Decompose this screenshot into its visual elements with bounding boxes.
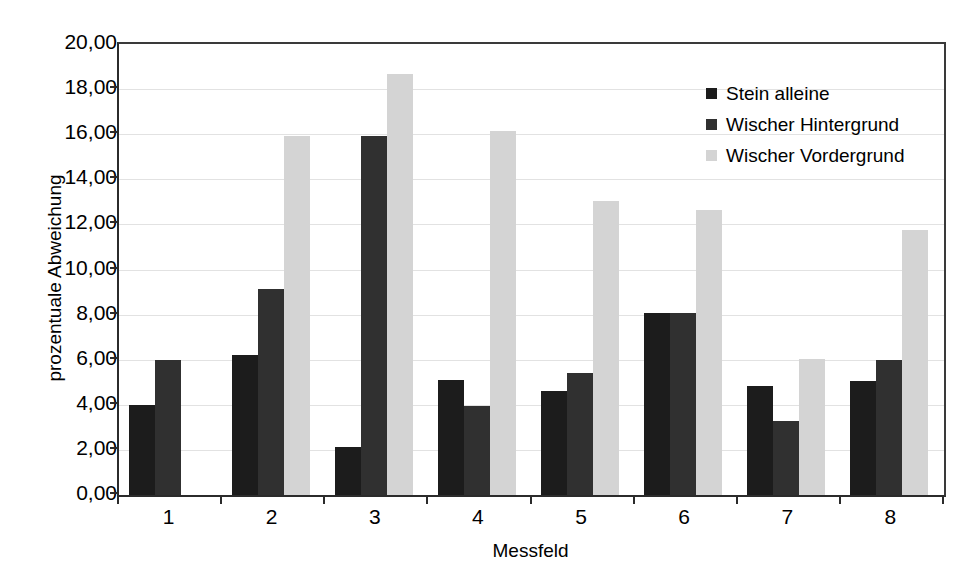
y-tick-label: 14,00 bbox=[33, 166, 117, 187]
bar bbox=[335, 447, 361, 495]
x-tick-mark bbox=[426, 495, 428, 504]
x-tick-mark bbox=[736, 495, 738, 504]
bar bbox=[438, 380, 464, 495]
bar bbox=[258, 289, 284, 495]
x-axis-title: Messfeld bbox=[117, 540, 944, 562]
x-tick-label: 5 bbox=[551, 505, 611, 529]
y-tick-label: 8,00 bbox=[33, 302, 117, 323]
x-tick-label: 3 bbox=[345, 505, 405, 529]
y-tick-label: 20,00 bbox=[33, 31, 117, 52]
gridline bbox=[119, 179, 944, 180]
x-tick-mark bbox=[117, 495, 119, 504]
x-tick-mark bbox=[633, 495, 635, 504]
y-axis-ticks: 0,002,004,006,008,0010,0012,0014,0016,00… bbox=[0, 0, 117, 576]
bar bbox=[670, 313, 696, 495]
bar bbox=[155, 360, 181, 495]
bar bbox=[387, 74, 413, 495]
legend-swatch-icon bbox=[706, 119, 717, 130]
x-tick-label: 1 bbox=[139, 505, 199, 529]
bar bbox=[232, 355, 258, 495]
legend-label: Wischer Hintergrund bbox=[726, 115, 899, 134]
y-tick-label: 4,00 bbox=[33, 392, 117, 413]
y-tick-label: 2,00 bbox=[33, 437, 117, 458]
legend-label: Wischer Vordergrund bbox=[726, 146, 904, 165]
bar bbox=[876, 360, 902, 495]
x-tick-label: 8 bbox=[860, 505, 920, 529]
x-tick-mark bbox=[323, 495, 325, 504]
legend: Stein alleineWischer HintergrundWischer … bbox=[706, 78, 904, 171]
x-tick-mark bbox=[942, 495, 944, 504]
x-tick-mark bbox=[530, 495, 532, 504]
legend-item: Wischer Vordergrund bbox=[706, 140, 904, 171]
y-tick-label: 16,00 bbox=[33, 121, 117, 142]
bar bbox=[464, 406, 490, 495]
y-tick-label: 10,00 bbox=[33, 257, 117, 278]
y-tick-label: 12,00 bbox=[33, 211, 117, 232]
bar bbox=[593, 201, 619, 495]
y-tick-label: 6,00 bbox=[33, 347, 117, 368]
gridline bbox=[119, 224, 944, 225]
bar bbox=[361, 136, 387, 495]
legend-swatch-icon bbox=[706, 88, 717, 99]
bar bbox=[747, 386, 773, 495]
bar bbox=[902, 230, 928, 495]
x-tick-mark bbox=[220, 495, 222, 504]
bar bbox=[850, 381, 876, 495]
y-tick-label: 18,00 bbox=[33, 76, 117, 97]
legend-swatch-icon bbox=[706, 150, 717, 161]
bar bbox=[644, 313, 670, 495]
bar bbox=[129, 405, 155, 495]
x-tick-label: 2 bbox=[242, 505, 302, 529]
legend-item: Wischer Hintergrund bbox=[706, 109, 904, 140]
bar bbox=[696, 210, 722, 495]
bar bbox=[567, 373, 593, 495]
x-tick-mark bbox=[839, 495, 841, 504]
bar bbox=[799, 359, 825, 495]
bar bbox=[490, 131, 516, 495]
bar-chart: prozentuale Abweichung 0,002,004,006,008… bbox=[0, 0, 967, 576]
gridline bbox=[119, 315, 944, 316]
x-tick-label: 7 bbox=[757, 505, 817, 529]
bar bbox=[284, 136, 310, 495]
legend-label: Stein alleine bbox=[726, 84, 830, 103]
x-tick-label: 4 bbox=[448, 505, 508, 529]
bar bbox=[773, 421, 799, 495]
y-tick-label: 0,00 bbox=[33, 482, 117, 503]
x-tick-label: 6 bbox=[654, 505, 714, 529]
gridline bbox=[119, 270, 944, 271]
bar bbox=[541, 391, 567, 495]
legend-item: Stein alleine bbox=[706, 78, 904, 109]
